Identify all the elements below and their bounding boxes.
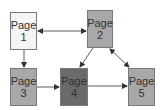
node-label-word: Page <box>11 19 37 31</box>
node-page-5: Page 5 <box>128 68 155 106</box>
node-page-4: Page 4 <box>60 68 88 106</box>
node-label-number: 5 <box>138 87 144 99</box>
node-label-number: 4 <box>71 87 77 99</box>
node-label-number: 3 <box>20 87 26 99</box>
node-page-3: Page 3 <box>10 68 37 106</box>
node-label-word: Page <box>61 75 87 87</box>
edge-page2-page4 <box>80 48 93 67</box>
edge-page2-page5 <box>110 49 129 67</box>
node-label-word: Page <box>87 17 113 29</box>
node-page-2: Page 2 <box>87 10 113 48</box>
node-page-1: Page 1 <box>10 12 37 50</box>
page-flow-diagram: Page 1 Page 2 Page 3 Page 4 Page 5 <box>0 0 165 110</box>
node-label-word: Page <box>129 75 155 87</box>
node-label-number: 1 <box>20 31 26 43</box>
node-label-number: 2 <box>97 29 103 41</box>
node-label-word: Page <box>11 75 37 87</box>
